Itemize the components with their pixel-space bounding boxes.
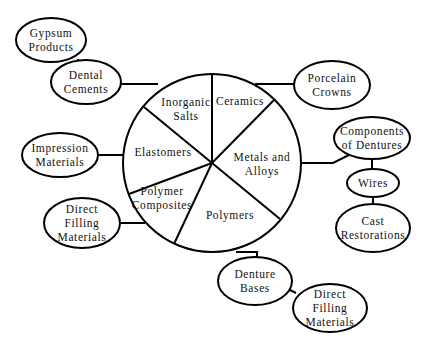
node-impression-materials: ImpressionMaterials (22, 133, 98, 177)
segment-label-polymer-composites: PolymerComposites (132, 185, 192, 212)
node-cast-restorations: CastRestorations (336, 204, 410, 252)
segment-label-elastomers: Elastomers (134, 146, 191, 158)
node-wires: Wires (347, 169, 399, 197)
node-direct-filling-materials-bottom: DirectFillingMaterials (293, 284, 367, 332)
node-ellipse (218, 257, 292, 305)
segment-label-ceramics: Ceramics (216, 95, 264, 107)
node-ellipse (16, 18, 86, 62)
node-ellipse (294, 61, 370, 109)
node-denture-bases: DentureBases (218, 257, 292, 305)
connector-denture-bases-to-direct-filling-materials-bottom (290, 290, 296, 293)
node-ellipse (336, 204, 410, 252)
node-porcelain-crowns: PorcelainCrowns (294, 61, 370, 109)
segment-label-polymers: Polymers (206, 209, 254, 222)
node-components-of-dentures: Componentsof Dentures (334, 117, 410, 159)
node-ellipse (22, 133, 98, 177)
node-label: Wires (358, 177, 388, 189)
node-direct-filling-materials-left: DirectFillingMaterials (44, 198, 120, 248)
central-pie-chart: InorganicSaltsCeramicsMetals andAlloysPo… (123, 74, 301, 252)
node-dental-cements: DentalCements (51, 60, 121, 104)
dental-materials-diagram: InorganicSaltsCeramicsMetals andAlloysPo… (0, 0, 429, 338)
connector-metals-and-alloys-to-components-of-dentures (300, 155, 349, 163)
node-gypsum-products: GypsumProducts (16, 18, 86, 62)
node-ellipse (334, 117, 410, 159)
node-ellipse (51, 60, 121, 104)
